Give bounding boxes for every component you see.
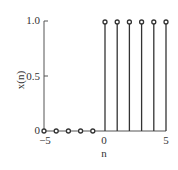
stem-marker <box>54 129 58 133</box>
stem-marker <box>103 20 107 24</box>
stem-marker <box>91 129 95 133</box>
stem-marker <box>127 20 131 24</box>
x-tick-label-0: 0 <box>101 134 107 146</box>
x-tick-label-5: 5 <box>163 134 169 146</box>
x-axis-label: n <box>101 147 107 159</box>
stem-marker <box>152 20 156 24</box>
stem-marker <box>66 129 70 133</box>
y-tick-label-1: 1.0 <box>26 14 40 26</box>
stems-group <box>42 20 168 133</box>
stem-marker <box>115 20 119 24</box>
stem-marker <box>140 20 144 24</box>
stem-marker <box>164 20 168 24</box>
stem-marker <box>42 129 46 133</box>
y-axis-label: x(n) <box>14 71 27 90</box>
stem-plot: 1.0 0.5 0 −5 0 5 n x(n) <box>0 0 178 170</box>
stem-marker <box>79 129 83 133</box>
y-tick-label-05: 0.5 <box>26 70 40 82</box>
x-tick-label-neg5: −5 <box>39 134 51 146</box>
